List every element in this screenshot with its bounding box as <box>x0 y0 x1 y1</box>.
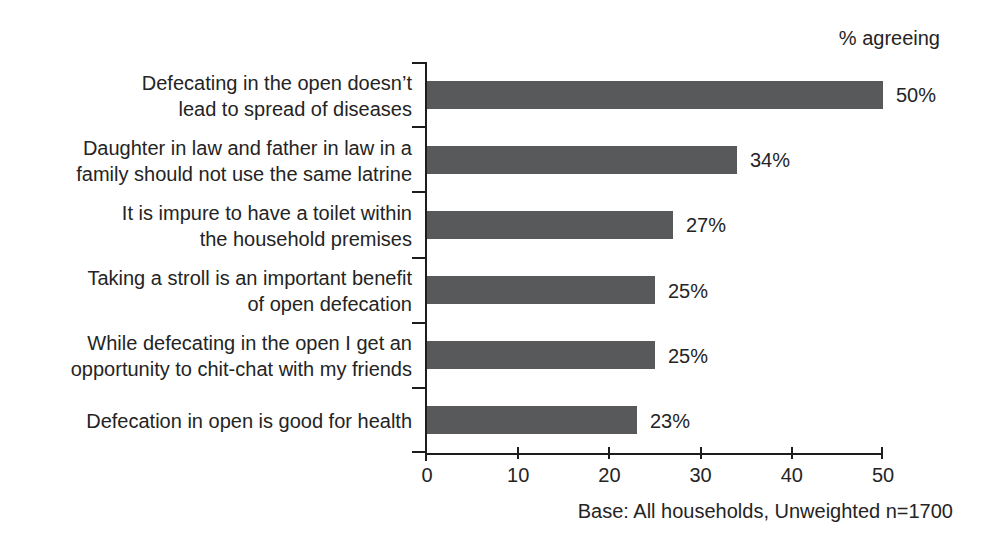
value-label: 25% <box>668 259 708 324</box>
x-axis-tick-label: 40 <box>781 464 803 487</box>
bar-chart-figure: % agreeing Defecating in the open doesn’… <box>0 0 986 549</box>
value-label: 50% <box>896 63 936 128</box>
x-axis-tick <box>791 447 793 459</box>
category-axis-tick <box>412 451 425 453</box>
base-footnote: Base: All households, Unweighted n=1700 <box>578 500 953 523</box>
bar <box>427 81 883 109</box>
x-axis-zero-tick <box>425 453 427 461</box>
x-axis-tick <box>881 447 883 459</box>
value-label: 27% <box>686 193 726 258</box>
bar <box>427 146 737 174</box>
category-label-line: It is impure to have a toilet within <box>122 200 412 226</box>
value-label: 23% <box>650 389 690 454</box>
value-label: 34% <box>750 128 790 193</box>
category-label: Defecating in the open doesn’tlead to sp… <box>0 63 412 128</box>
category-label: While defecating in the open I get anopp… <box>0 324 412 389</box>
bar <box>427 406 637 434</box>
category-label-line: Daughter in law and father in law in a <box>83 135 412 161</box>
x-axis-tick <box>700 447 702 459</box>
category-axis-tick <box>412 191 425 193</box>
category-label: Taking a stroll is an important benefito… <box>0 259 412 324</box>
x-axis-tick <box>517 447 519 459</box>
x-axis-tick-label: 0 <box>421 464 432 487</box>
category-label-line: Defecating in the open doesn’t <box>142 70 412 96</box>
x-axis-tick-label: 20 <box>598 464 620 487</box>
category-label: It is impure to have a toilet withinthe … <box>0 193 412 258</box>
x-axis-tick-label: 10 <box>507 464 529 487</box>
chart-title: % agreeing <box>839 27 940 50</box>
category-label-line: Taking a stroll is an important benefit <box>87 265 412 291</box>
x-axis-tick-label: 30 <box>689 464 711 487</box>
category-label-line: the household premises <box>200 226 412 252</box>
bar <box>427 211 673 239</box>
category-label-line: family should not use the same latrine <box>76 161 412 187</box>
category-label-line: While defecating in the open I get an <box>87 330 412 356</box>
category-axis-tick <box>412 387 425 389</box>
bar <box>427 341 655 369</box>
category-label-line: lead to spread of diseases <box>179 96 413 122</box>
category-axis-tick <box>412 257 425 259</box>
category-label-line: opportunity to chit-chat with my friends <box>71 356 412 382</box>
category-label-line: Defecation in open is good for health <box>86 408 412 434</box>
x-axis-tick <box>608 447 610 459</box>
category-label: Defecation in open is good for health <box>0 389 412 454</box>
value-label: 25% <box>668 324 708 389</box>
x-axis-tick-label: 50 <box>872 464 894 487</box>
bar <box>427 276 655 304</box>
category-axis-tick <box>412 126 425 128</box>
category-label: Daughter in law and father in law in afa… <box>0 128 412 193</box>
category-axis-tick <box>412 62 425 64</box>
category-axis-tick <box>412 322 425 324</box>
category-label-line: of open defecation <box>247 291 412 317</box>
